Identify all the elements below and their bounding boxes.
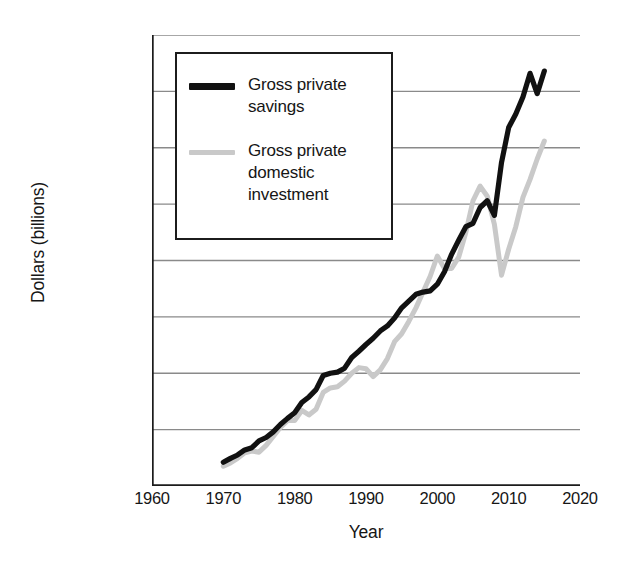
investment-line-swatch (189, 150, 235, 155)
x-tick-label: 2000 (397, 489, 477, 508)
legend-label-investment: Gross private domestic investment (248, 140, 388, 206)
x-tick-label: 1970 (183, 489, 263, 508)
line-chart-figure: Dollars (billions) $0.00$500.00$1,000.00… (0, 0, 629, 564)
savings-line-swatch (189, 83, 235, 90)
x-tick-label: 1980 (255, 489, 335, 508)
legend-entry-gross-private-domestic-investment: Gross private domestic investment (189, 140, 388, 206)
chart-legend: Gross private savings Gross private dome… (175, 52, 393, 240)
x-tick-label: 1990 (326, 489, 406, 508)
y-axis-title: Dollars (billions) (28, 143, 49, 343)
x-tick-label: 2010 (469, 489, 549, 508)
x-tick-label: 1960 (112, 489, 192, 508)
x-tick-label: 2020 (540, 489, 620, 508)
x-axis-title: Year (152, 522, 580, 543)
legend-entry-gross-private-savings: Gross private savings (189, 74, 388, 118)
legend-label-savings: Gross private savings (248, 74, 388, 118)
